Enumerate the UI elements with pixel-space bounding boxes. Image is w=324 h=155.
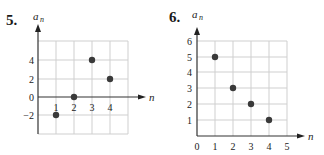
data-point xyxy=(230,85,236,91)
chart-5-ytick: 2 xyxy=(29,74,34,85)
chart-5-points xyxy=(53,57,113,118)
chart-5-xtick: 4 xyxy=(108,102,113,113)
chart-6-ytick: 6 xyxy=(187,36,192,47)
data-point xyxy=(71,94,77,100)
data-point xyxy=(107,76,113,82)
chart-5-x-arrow-icon xyxy=(138,95,146,100)
charts-canvas: a n n 1 2 3 4 4 2 0 −2 xyxy=(0,0,324,155)
chart-6-x-label: n xyxy=(308,130,314,142)
chart-6: a n n 0 1 2 3 4 5 6 5 4 3 2 1 xyxy=(187,8,314,152)
chart-5-grid xyxy=(38,41,128,134)
chart-5-x-label: n xyxy=(149,91,155,103)
data-point xyxy=(89,57,95,63)
chart-6-xtick: 2 xyxy=(231,141,236,152)
chart-6-ytick: 5 xyxy=(187,52,192,63)
chart-5-y-label: a xyxy=(33,10,39,22)
chart-5-xtick: 1 xyxy=(54,102,59,113)
chart-6-xtick: 1 xyxy=(213,141,218,152)
chart-5-ytick: 4 xyxy=(29,55,34,66)
chart-6-y-label: a xyxy=(192,8,198,20)
chart-6-ytick: 2 xyxy=(187,99,192,110)
chart-6-ytick: 1 xyxy=(187,115,192,126)
chart-5-ytick: −2 xyxy=(23,110,34,121)
chart-5-y-label-sub: n xyxy=(40,15,44,24)
chart-5: a n n 1 2 3 4 4 2 0 −2 xyxy=(23,10,155,134)
chart-6-y-label-sub: n xyxy=(199,13,203,22)
chart-6-x-arrow-icon xyxy=(297,134,305,139)
chart-6-ytick: 4 xyxy=(187,67,192,78)
chart-6-xtick: 4 xyxy=(267,141,272,152)
data-point xyxy=(266,117,272,123)
chart-5-xtick: 2 xyxy=(72,102,77,113)
data-point xyxy=(248,101,254,107)
chart-6-grid xyxy=(197,41,287,136)
chart-6-ytick: 3 xyxy=(187,83,192,94)
chart-6-y-arrow-icon xyxy=(194,27,200,35)
chart-5-ytick: 0 xyxy=(29,92,34,103)
chart-5-xtick: 3 xyxy=(90,102,95,113)
chart-6-xtick: 3 xyxy=(249,141,254,152)
chart-6-xtick: 5 xyxy=(285,141,290,152)
chart-5-y-arrow-icon xyxy=(35,24,41,32)
data-point xyxy=(53,112,59,118)
chart-6-xtick: 0 xyxy=(195,141,200,152)
data-point xyxy=(212,54,218,60)
